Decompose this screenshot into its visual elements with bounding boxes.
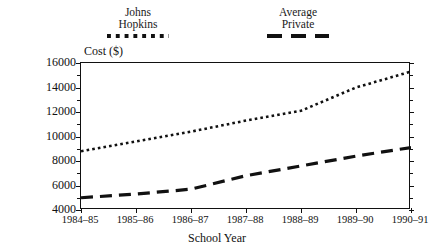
y-axis-tick-label: 6000 xyxy=(4,177,76,192)
legend-label-johns-hopkins-line1: Johns xyxy=(92,6,184,18)
plot-area xyxy=(80,62,410,209)
legend-label-average-private-line1: Average xyxy=(252,6,344,18)
legend-item-johns-hopkins: Johns Hopkins xyxy=(92,6,184,38)
x-axis-tick-label: 1984–85 xyxy=(62,214,99,225)
y-axis-title: Cost ($) xyxy=(84,44,123,59)
x-axis-tick-label: 1990–91 xyxy=(392,214,429,225)
x-axis-title: School Year xyxy=(0,231,434,246)
y-axis-tick-label: 12000 xyxy=(4,104,76,119)
plot-inner xyxy=(81,63,409,208)
legend-swatch-dotted-icon xyxy=(107,34,169,38)
x-axis-tick-label: 1987–88 xyxy=(227,214,264,225)
legend-label-average-private-line2: Private xyxy=(252,18,344,30)
y-axis-tick-label: 10000 xyxy=(4,128,76,143)
x-axis-tick xyxy=(411,208,412,213)
y-axis-tick-label: 8000 xyxy=(4,153,76,168)
y-axis-tick-label: 14000 xyxy=(4,79,76,94)
x-axis-tick-label: 1988–89 xyxy=(282,214,319,225)
legend-label-johns-hopkins-line2: Hopkins xyxy=(92,18,184,30)
x-axis-tick-label: 1985–86 xyxy=(117,214,154,225)
legend-swatch-dashed-icon xyxy=(267,34,329,38)
x-axis-tick-label: 1989–90 xyxy=(337,214,374,225)
series-line-average-private xyxy=(81,148,411,198)
x-axis-tick-label: 1986–87 xyxy=(172,214,209,225)
chart-container: Johns Hopkins Average Private Cost ($) 4… xyxy=(0,0,434,252)
series-line-johns-hopkins xyxy=(81,72,411,152)
series-canvas xyxy=(81,63,411,210)
legend-item-average-private: Average Private xyxy=(252,6,344,38)
y-axis-tick-label: 16000 xyxy=(4,55,76,70)
